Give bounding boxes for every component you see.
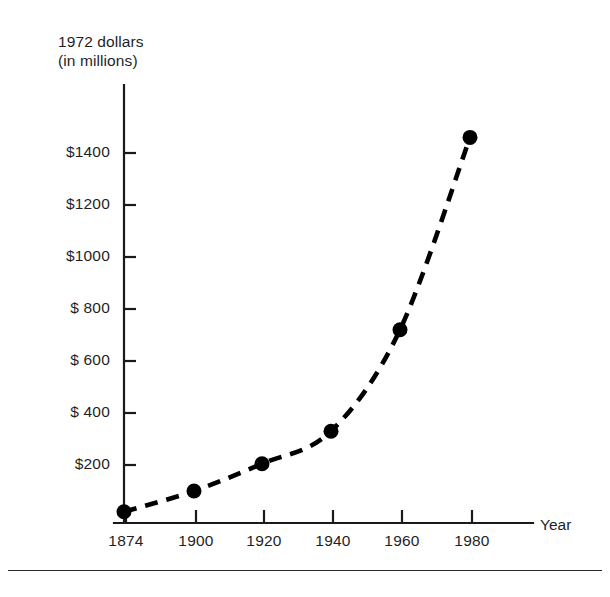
data-point-marker <box>255 456 270 471</box>
data-point-marker <box>393 322 408 337</box>
bottom-divider <box>8 570 602 571</box>
x-axis-tick-marks <box>126 510 472 523</box>
data-point-marker <box>324 424 339 439</box>
data-point-marker <box>187 484 202 499</box>
series-line-dashed <box>124 137 470 511</box>
y-axis-tick-marks <box>124 153 136 465</box>
series-markers <box>117 130 478 519</box>
plot-area <box>0 0 610 597</box>
axes <box>114 85 533 523</box>
chart-figure: 1972 dollars(in millions) $200$ 400$ 600… <box>0 0 610 597</box>
data-point-marker <box>463 130 478 145</box>
data-series <box>117 130 478 519</box>
data-point-marker <box>117 504 132 519</box>
